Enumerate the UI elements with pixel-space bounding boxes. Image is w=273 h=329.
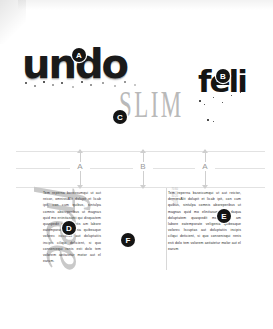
dimension-label: A [195,162,215,171]
callout-marker-b[interactable]: B [216,69,230,83]
ink-speck-icon [204,104,205,105]
right-text-column: Tem reperna baseicumqui ut aut reictor, … [168,190,241,252]
arrow-up-icon [140,149,146,153]
dimension-marker-1[interactable]: A [73,148,87,190]
dimension-label: B [133,162,153,171]
dimension-marker-2[interactable]: B [136,148,150,190]
dimension-label: A [70,162,90,171]
body-zone: free 70 60 50 40 30 20 15 12 10 8 Tem re… [0,188,273,329]
specimen-zone: undo SLIM feli A B C [0,0,273,150]
ink-speck-icon [231,95,232,96]
arrow-up-icon [77,149,83,153]
specimen-word-slim: SLIM [119,86,184,123]
arrow-up-icon [202,149,208,153]
callout-marker-c[interactable]: C [113,110,127,124]
callout-marker-e[interactable]: E [217,209,231,223]
dimension-marker-3[interactable]: A [198,148,212,190]
ink-speck-icon [199,100,201,102]
column-divider [166,188,167,270]
callout-marker-f[interactable]: F [121,233,135,247]
callout-marker-d[interactable]: D [62,221,76,235]
callout-marker-a[interactable]: A [72,48,86,62]
ink-speck-icon [222,102,223,103]
measurement-guides: A B A [0,148,273,190]
ink-speck-icon [207,119,209,121]
ink-speck-icon [213,121,214,122]
specimen-page: undo SLIM feli A B C A B [0,0,273,329]
